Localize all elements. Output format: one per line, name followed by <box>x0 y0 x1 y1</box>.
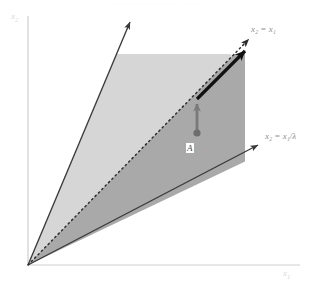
point-label-a: A <box>186 143 194 153</box>
y-axis-label-sub: 2 <box>15 16 18 23</box>
lower-line-label: x₂ = x₁/λ <box>265 131 296 141</box>
x-axis-label-sub: 1 <box>287 273 290 280</box>
diagonal-line-label: x₂ = x₁ <box>251 24 276 34</box>
point-marker-a <box>193 129 200 136</box>
x-axis-label: x1 <box>283 268 290 280</box>
y-axis-label: x2 <box>11 11 18 23</box>
figure-canvas: · · · ·· · · ··· · · · ·· · ··· · ·· · ·… <box>0 0 315 296</box>
plot-svg <box>0 0 315 296</box>
